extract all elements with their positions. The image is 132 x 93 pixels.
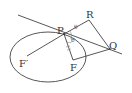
segment-fprime-p (27, 34, 64, 56)
label-theta-lower: θ (71, 37, 75, 43)
label-q: Q (109, 41, 117, 51)
tangent-line (18, 15, 122, 54)
label-r: R (86, 10, 94, 20)
label-f-prime: F′ (19, 59, 28, 69)
segment-r-q (89, 20, 110, 49)
ellipse-diagram: P R Q F F′ θ θ (0, 0, 132, 93)
segment-f-q (73, 49, 110, 60)
label-f: F (70, 63, 77, 73)
label-theta-upper: θ (74, 24, 78, 30)
label-p: P (57, 26, 64, 36)
